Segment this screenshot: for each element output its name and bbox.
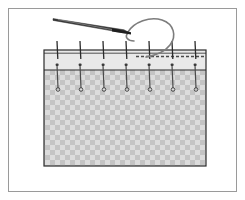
- pin-top-3: [103, 41, 104, 59]
- pin-seam-nub-2: [79, 64, 82, 66]
- sewing-diagram: [0, 0, 245, 200]
- pin-top-6: [172, 41, 173, 59]
- illustration-canvas: Sewing a curtain heading: needle, thread…: [0, 0, 245, 200]
- pin-seam-nub-1: [56, 64, 59, 66]
- checked-fabric-body: [44, 70, 206, 166]
- pin-seam-nub-6: [171, 64, 174, 66]
- curtain-fabric: [44, 50, 206, 166]
- pin-top-1: [57, 41, 58, 59]
- pin-seam-nub-4: [125, 64, 128, 66]
- pin-top-4: [126, 41, 127, 59]
- pin-top-7: [195, 41, 196, 59]
- pin-seam-nub-7: [194, 64, 197, 66]
- pin-seam-nub-3: [102, 64, 105, 66]
- pin-seam-nub-5: [148, 64, 151, 66]
- pin-top-2: [80, 41, 81, 59]
